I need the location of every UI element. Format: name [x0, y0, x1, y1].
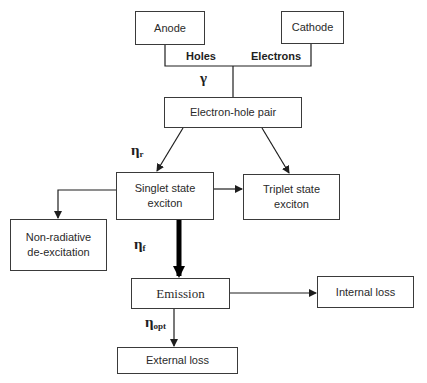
eta-opt-label: ηopt: [145, 314, 166, 331]
flow-diagram: Anode Cathode Holes Electrons γ Electron…: [0, 0, 427, 383]
triplet-label-line2: exciton: [263, 197, 320, 212]
arrow-pair-to-triplet: [262, 128, 289, 173]
singlet-label-line1: Singlet state: [135, 181, 196, 196]
emission-box: Emission: [131, 278, 230, 309]
arrow-singlet-to-nonradiative: [58, 190, 116, 218]
non-radiative-box: Non-radiative de-excitation: [10, 219, 107, 271]
internal-loss-box: Internal loss: [317, 276, 414, 308]
anode-label: Anode: [154, 21, 186, 36]
cathode-box: Cathode: [281, 11, 344, 44]
holes-label: Holes: [186, 50, 216, 62]
eta-r-symbol: η: [131, 142, 140, 158]
eta-f-symbol: η: [134, 236, 143, 252]
external-loss-label: External loss: [146, 353, 209, 368]
eta-f-label: ηf: [134, 236, 146, 253]
electrons-label: Electrons: [251, 50, 301, 62]
internal-loss-label: Internal loss: [336, 285, 395, 300]
eta-opt-symbol: η: [145, 314, 154, 330]
triplet-label-line1: Triplet state: [263, 182, 320, 197]
eta-r-subscript: r: [140, 149, 144, 159]
external-loss-box: External loss: [117, 347, 238, 374]
non-radiative-label-line1: Non-radiative: [26, 230, 91, 245]
arrow-pair-to-singlet: [157, 128, 183, 171]
electron-hole-pair-label: Electron-hole pair: [190, 105, 276, 120]
triplet-exciton-box: Triplet state exciton: [243, 174, 340, 220]
singlet-label-line2: exciton: [135, 196, 196, 211]
gamma-label: γ: [200, 70, 207, 87]
eta-f-subscript: f: [143, 243, 146, 253]
non-radiative-label-line2: de-excitation: [26, 245, 91, 260]
electron-hole-pair-box: Electron-hole pair: [164, 97, 302, 128]
eta-r-label: ηr: [131, 142, 144, 159]
emission-label: Emission: [156, 286, 204, 301]
singlet-exciton-box: Singlet state exciton: [116, 172, 214, 220]
eta-opt-subscript: opt: [154, 321, 167, 331]
anode-box: Anode: [135, 11, 205, 45]
cathode-label: Cathode: [292, 20, 334, 35]
